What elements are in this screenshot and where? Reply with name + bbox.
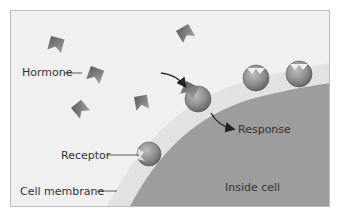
cell-membrane-label: Cell membrane — [20, 186, 104, 197]
receptor-icon — [243, 65, 269, 91]
hormone-icon — [47, 36, 64, 53]
receptor-icon — [137, 142, 161, 166]
diagram-frame: Hormone Receptor Cell membrane Response … — [10, 10, 330, 207]
receptor-icon — [286, 61, 312, 87]
binding-arrow — [161, 73, 185, 86]
hormone-icon — [86, 66, 104, 84]
inside-cell-label: Inside cell — [225, 182, 280, 193]
hormone-icon — [176, 24, 195, 43]
hormone-label: Hormone — [22, 67, 73, 78]
hormone-icon — [134, 95, 149, 111]
cell-signaling-illustration — [11, 11, 330, 207]
hormone-icon — [71, 100, 90, 119]
response-label: Response — [238, 124, 291, 135]
receptor-label: Receptor — [61, 150, 110, 161]
